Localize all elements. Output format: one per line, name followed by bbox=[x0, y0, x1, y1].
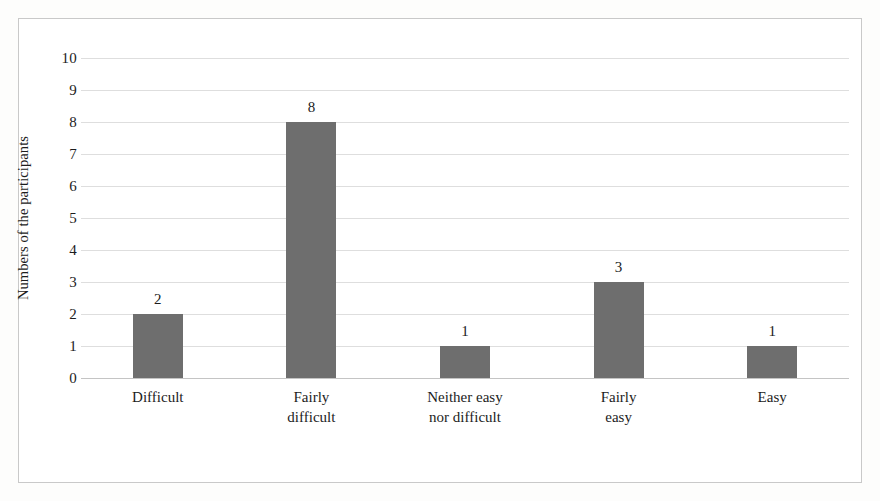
y-axis-title: Numbers of the participants bbox=[15, 58, 33, 378]
y-axis-tick-labels: 109876543210 bbox=[37, 58, 77, 378]
axis-baseline bbox=[81, 378, 849, 379]
plot-area: 28131 bbox=[81, 58, 849, 378]
x-category-label: Neither easy nor difficult bbox=[388, 387, 542, 427]
bar[interactable] bbox=[286, 122, 336, 378]
bar[interactable] bbox=[594, 282, 644, 378]
bar-value-label: 1 bbox=[768, 324, 776, 339]
y-tick-label: 1 bbox=[69, 339, 77, 354]
bar-value-label: 8 bbox=[308, 100, 316, 115]
bar[interactable] bbox=[747, 346, 797, 378]
bar[interactable] bbox=[133, 314, 183, 378]
y-tick-label: 5 bbox=[69, 211, 77, 226]
bar-group[interactable]: 2 bbox=[81, 58, 235, 378]
x-axis-category-labels: DifficultFairly difficultNeither easy no… bbox=[81, 387, 849, 457]
chart-frame: Numbers of the participants 109876543210… bbox=[18, 18, 862, 483]
figure-page: Numbers of the participants 109876543210… bbox=[0, 0, 880, 501]
y-tick-label: 7 bbox=[69, 147, 77, 162]
y-tick-label: 4 bbox=[69, 243, 77, 258]
x-category-label: Fairly easy bbox=[542, 387, 696, 427]
bar[interactable] bbox=[440, 346, 490, 378]
y-tick-label: 8 bbox=[69, 115, 77, 130]
x-category-label: Difficult bbox=[81, 387, 235, 407]
x-category-label: Easy bbox=[695, 387, 849, 407]
bar-value-label: 2 bbox=[154, 292, 162, 307]
y-tick-label: 10 bbox=[62, 51, 77, 66]
bar-group[interactable]: 1 bbox=[695, 58, 849, 378]
y-tick-label: 3 bbox=[69, 275, 77, 290]
x-category-label: Fairly difficult bbox=[235, 387, 389, 427]
y-tick-label: 2 bbox=[69, 307, 77, 322]
y-tick-label: 6 bbox=[69, 179, 77, 194]
bar-group[interactable]: 1 bbox=[388, 58, 542, 378]
y-tick-label: 9 bbox=[69, 83, 77, 98]
bar-group[interactable]: 3 bbox=[542, 58, 696, 378]
bar-group[interactable]: 8 bbox=[235, 58, 389, 378]
y-tick-label: 0 bbox=[69, 371, 77, 386]
bar-value-label: 1 bbox=[461, 324, 469, 339]
bar-value-label: 3 bbox=[615, 260, 623, 275]
